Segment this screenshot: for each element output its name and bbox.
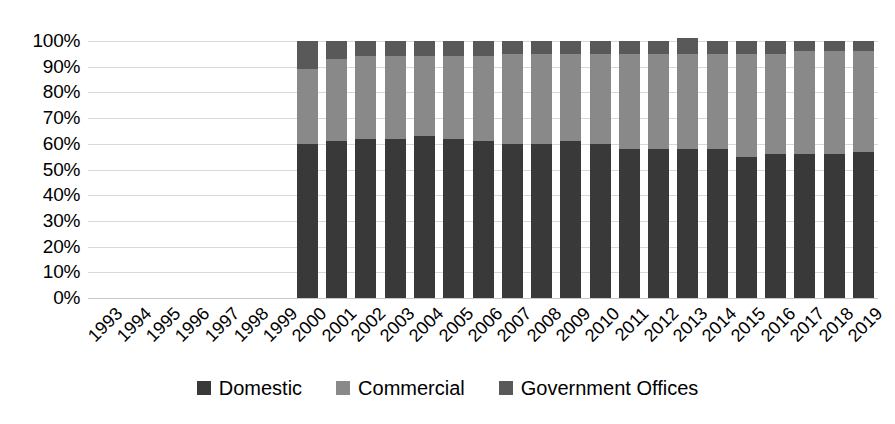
bar-segment [297, 144, 318, 298]
bar-segment [853, 51, 874, 151]
bar-segment [385, 56, 406, 138]
y-axis-tick-label: 40% [0, 185, 80, 204]
bar-segment [619, 41, 640, 54]
bar-segment [590, 144, 611, 298]
bar-group [765, 41, 786, 298]
bar-segment [560, 141, 581, 298]
bar-segment [473, 41, 494, 56]
bar-segment [326, 59, 347, 141]
y-axis-tick-label: 20% [0, 237, 80, 256]
y-axis-tick-label: 80% [0, 82, 80, 101]
bar-segment [414, 136, 435, 298]
bar-segment [297, 41, 318, 69]
bar-segment [707, 41, 728, 54]
bar-segment [414, 41, 435, 56]
bar-segment [531, 41, 552, 54]
bar-segment [443, 41, 464, 56]
bar-group [824, 41, 845, 298]
bar-segment [794, 41, 815, 51]
chart-legend: DomesticCommercialGovernment Offices [0, 378, 895, 398]
bar-segment [297, 69, 318, 144]
bar-group [677, 38, 698, 298]
bar-segment [502, 41, 523, 54]
x-axis: 1993199419951996199719981999200020012002… [88, 298, 878, 378]
bar-segment [765, 41, 786, 54]
bar-group [648, 41, 669, 298]
bar-segment [765, 54, 786, 154]
y-axis-tick-label: 90% [0, 57, 80, 76]
bar-segment [648, 54, 669, 149]
y-axis-tick-label: 30% [0, 211, 80, 230]
bar-segment [443, 139, 464, 298]
bar-group [414, 41, 435, 298]
bar-segment [502, 54, 523, 144]
bar-group [736, 41, 757, 298]
bar-group [794, 41, 815, 298]
bar-segment [736, 157, 757, 298]
bar-segment [560, 41, 581, 54]
legend-item[interactable]: Government Offices [499, 378, 698, 398]
bar-segment [619, 54, 640, 149]
bar-segment [853, 41, 874, 51]
bar-segment [473, 141, 494, 298]
legend-item[interactable]: Domestic [197, 378, 302, 398]
bar-group [326, 41, 347, 298]
bar-segment [326, 141, 347, 298]
bar-segment [531, 144, 552, 298]
bar-segment [765, 154, 786, 298]
y-axis: 0%10%20%30%40%50%60%70%80%90%100% [0, 41, 80, 298]
y-axis-tick-label: 100% [0, 31, 80, 50]
bar-segment [355, 139, 376, 298]
bar-segment [590, 41, 611, 54]
bar-segment [677, 149, 698, 298]
bar-segment [590, 54, 611, 144]
legend-label: Commercial [358, 378, 465, 398]
bar-group [560, 41, 581, 298]
bar-segment [619, 149, 640, 298]
bar-segment [824, 154, 845, 298]
bar-group [619, 41, 640, 298]
bar-segment [355, 56, 376, 138]
bar-group [853, 41, 874, 298]
bar-segment [707, 54, 728, 149]
bar-segment [677, 54, 698, 149]
bar-segment [560, 54, 581, 141]
stacked-bar-chart: 0%10%20%30%40%50%60%70%80%90%100% 199319… [0, 0, 895, 424]
y-axis-tick-label: 50% [0, 160, 80, 179]
bar-segment [677, 38, 698, 53]
bar-segment [473, 56, 494, 141]
y-axis-tick-label: 0% [0, 288, 80, 307]
legend-item[interactable]: Commercial [336, 378, 465, 398]
bar-segment [736, 41, 757, 54]
bar-segment [824, 41, 845, 51]
bar-group [707, 41, 728, 298]
legend-swatch-icon [336, 381, 350, 395]
bar-group [473, 41, 494, 298]
y-axis-tick-label: 60% [0, 134, 80, 153]
bar-segment [531, 54, 552, 144]
bar-segment [648, 41, 669, 54]
bar-segment [385, 139, 406, 298]
bar-group [443, 41, 464, 298]
bar-segment [648, 149, 669, 298]
bar-segment [824, 51, 845, 154]
bar-segment [736, 54, 757, 157]
plot-area [88, 41, 878, 298]
legend-label: Government Offices [521, 378, 698, 398]
legend-swatch-icon [197, 381, 211, 395]
legend-swatch-icon [499, 381, 513, 395]
y-axis-tick-label: 10% [0, 262, 80, 281]
bar-series-container [88, 41, 878, 298]
y-axis-tick-label: 70% [0, 108, 80, 127]
bar-group [355, 41, 376, 298]
bar-segment [502, 144, 523, 298]
bar-group [297, 41, 318, 298]
bar-group [502, 41, 523, 298]
bar-group [385, 41, 406, 298]
bar-segment [853, 152, 874, 298]
bar-segment [355, 41, 376, 56]
bar-segment [326, 41, 347, 59]
bar-segment [414, 56, 435, 136]
bar-segment [385, 41, 406, 56]
bar-segment [794, 154, 815, 298]
